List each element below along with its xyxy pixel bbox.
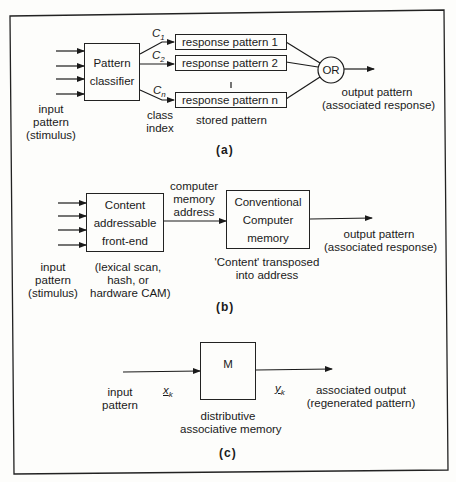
frontend-label-line2: addressable: [94, 214, 157, 232]
output-label-line2: (associated response): [322, 99, 432, 112]
output-label-line1: output pattern: [322, 86, 432, 99]
caption-c: (c): [219, 446, 237, 460]
input-label-line2: pattern: [100, 399, 140, 412]
classifier-label-line2: classifier: [90, 72, 135, 90]
response-pattern-2: response pattern 2: [175, 55, 287, 71]
output-label-line1: associated output: [298, 384, 424, 397]
memory-note-line2: associative memory: [180, 423, 276, 436]
panel-c-output-label: associated output (regenerated pattern): [298, 384, 424, 410]
class-index-line2: index: [144, 122, 176, 135]
panel-b-input-label: input pattern (stimulus): [28, 261, 78, 300]
frontend-label-line1: Content: [105, 196, 145, 214]
class-index-line1: class: [144, 109, 176, 122]
memory-address-label: computer memory address: [168, 180, 220, 219]
caption-a: (a): [216, 143, 234, 157]
address-label-line2: memory: [168, 193, 220, 206]
class-symbol-cn: Cn: [153, 84, 166, 101]
frontend-note-line2: hash, or: [90, 274, 166, 287]
memory-note-line1: distributive: [180, 410, 276, 423]
memory-note-line1: 'Content' transposed: [214, 256, 320, 269]
class-symbol-c2: C2: [152, 49, 165, 66]
input-label-line1: input: [28, 261, 78, 274]
conventional-memory-box: Conventional Computer memory: [226, 190, 310, 249]
caption-b: (b): [216, 300, 234, 314]
input-label-line3: (stimulus): [26, 129, 76, 142]
classifier-label-line1: Pattern: [93, 54, 130, 72]
response-pattern-1: response pattern 1: [175, 34, 287, 50]
distributive-memory-box: M: [200, 342, 256, 400]
memory-m-label: M: [223, 355, 233, 373]
output-label-line2: (regenerated pattern): [298, 397, 424, 410]
stored-pattern-label: stored pattern: [196, 114, 267, 127]
input-label-line2: pattern: [28, 274, 78, 287]
distributive-memory-note: distributive associative memory: [180, 410, 276, 436]
input-label-line1: input: [100, 386, 140, 399]
input-label-line3: (stimulus): [28, 287, 78, 300]
class-index-label: class index: [144, 109, 176, 135]
input-label-line1: input: [26, 103, 76, 116]
pattern-classifier-box: Pattern classifier: [84, 43, 140, 101]
memory-note-line2: into address: [214, 269, 320, 282]
output-label-line1: output pattern: [324, 228, 434, 241]
frontend-note: (lexical scan, hash, or hardware CAM): [90, 261, 166, 300]
panel-a-output-label: output pattern (associated response): [322, 86, 432, 112]
address-label-line1: computer: [168, 180, 220, 193]
panel-b-output-label: output pattern (associated response): [324, 228, 434, 254]
panel-c-input-label: input pattern: [100, 386, 140, 412]
response-pattern-n: response pattern n: [175, 92, 287, 108]
class-symbol-c1: C1: [152, 27, 165, 44]
x-k-symbol: xk: [163, 384, 173, 401]
frontend-note-line3: hardware CAM): [90, 287, 166, 300]
y-k-symbol: yk: [275, 382, 285, 399]
memory-label-line1: Conventional: [234, 193, 301, 211]
memory-label-line2: Computer: [243, 211, 294, 229]
or-gate-label: OR: [320, 64, 342, 77]
address-label-line3: address: [168, 206, 220, 219]
frontend-label-line3: front-end: [102, 232, 148, 250]
panel-a-input-label: input pattern (stimulus): [26, 103, 76, 142]
frontend-note-line1: (lexical scan,: [90, 261, 166, 274]
memory-label-line3: memory: [247, 229, 289, 247]
memory-note: 'Content' transposed into address: [214, 256, 320, 282]
output-label-line2: (associated response): [324, 241, 434, 254]
input-label-line2: pattern: [26, 116, 76, 129]
content-addressable-frontend-box: Content addressable front-end: [86, 193, 164, 252]
